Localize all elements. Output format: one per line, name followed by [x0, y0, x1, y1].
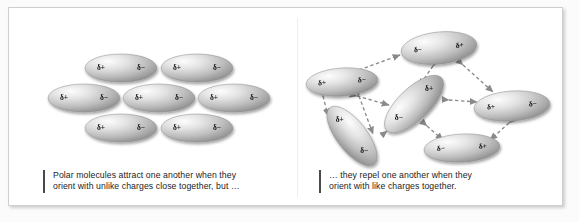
charge-label: δ+ — [425, 84, 433, 93]
charge-label: δ+ — [487, 102, 496, 112]
charge-label: δ− — [529, 99, 538, 109]
charge-label: δ+ — [210, 93, 218, 102]
repulsion-panel: δ− δ+ δ+ δ− δ+ — [297, 8, 564, 205]
charge-label: δ+ — [455, 40, 464, 50]
charge-label: δ+ — [318, 78, 327, 88]
molecule-group-row1: δ+ δ− δ+ δ− — [85, 54, 233, 82]
charge-label: δ+ — [173, 123, 181, 132]
attraction-molecule-stage: δ+ δ− δ+ δ− δ+ δ− — [9, 8, 297, 158]
charge-label: δ+ — [479, 141, 488, 150]
charge-label: δ− — [137, 123, 145, 132]
molecule-R2: δ+ δ− — [305, 66, 379, 99]
charge-label: δ+ — [173, 63, 181, 72]
attraction-caption: Polar molecules attract one another when… — [43, 170, 268, 193]
charge-label: δ+ — [97, 123, 105, 132]
molecule-L5: δ+ δ− — [198, 84, 270, 112]
figure-frame: δ+ δ− δ+ δ− δ+ δ− — [8, 7, 563, 206]
charge-label: δ+ — [60, 93, 68, 102]
molecule-L6: δ+ δ− — [85, 114, 157, 142]
molecule-group-row3: δ+ δ− δ+ δ− — [85, 114, 233, 142]
repulsion-arrow — [490, 123, 509, 140]
repulsion-arrow — [463, 65, 493, 92]
molecule-L1: δ+ δ− — [85, 54, 157, 82]
molecule-group-row2: δ+ δ− δ+ δ− δ+ δ− — [48, 84, 270, 112]
molecule-L3: δ+ δ− — [48, 84, 120, 112]
molecule-R5: δ+ δ− — [318, 98, 386, 173]
caption-line: Polar molecules attract one another when… — [53, 170, 268, 182]
charge-label: δ− — [100, 93, 108, 102]
charge-label: δ− — [213, 63, 221, 72]
charge-label: δ− — [213, 123, 221, 132]
polar-molecule-figure: δ+ δ− δ+ δ− δ+ δ− — [0, 0, 579, 222]
charge-label: δ+ — [135, 93, 143, 102]
molecule-R1: δ− δ+ — [400, 28, 479, 68]
charge-label: δ− — [250, 93, 258, 102]
repulsion-caption: … they repel one another when they orien… — [319, 170, 544, 193]
charge-label: δ− — [437, 144, 446, 153]
caption-line: … they repel one another when they — [329, 170, 544, 182]
charge-label: δ− — [358, 75, 367, 85]
repulsion-arrow — [359, 55, 400, 70]
caption-line: orient with like charges together. — [329, 181, 544, 193]
charge-label: δ− — [395, 113, 403, 122]
molecule-L4: δ+ δ− — [123, 84, 195, 112]
molecule-R4: δ+ δ− — [473, 88, 551, 123]
charge-label: δ+ — [336, 115, 344, 124]
attraction-panel: δ+ δ− δ+ δ− δ+ δ− — [9, 8, 297, 205]
molecule-L7: δ+ δ− — [161, 114, 233, 142]
caption-line: orient with unlike charges close togethe… — [53, 181, 268, 193]
repulsion-arrow — [449, 100, 477, 102]
charge-label: δ− — [414, 45, 423, 55]
charge-label: δ− — [175, 93, 183, 102]
charge-label: δ+ — [97, 63, 105, 72]
repulsion-molecule-stage: δ− δ+ δ+ δ− δ+ — [297, 8, 564, 158]
molecule-R6: δ− δ+ — [423, 132, 500, 164]
charge-label: δ− — [360, 146, 368, 155]
charge-label: δ− — [137, 63, 145, 72]
molecule-L2: δ+ δ− — [161, 54, 233, 82]
